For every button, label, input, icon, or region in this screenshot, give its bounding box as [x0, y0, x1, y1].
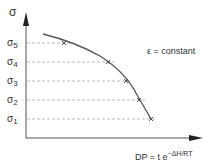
y-axis-arrow-icon [23, 12, 29, 26]
level-labels: σ5 σ4 σ3 σ2 σ1 [7, 37, 18, 126]
x-axis-label: DP = t e−ΔH/RT [135, 150, 193, 162]
label-sigma4: σ4 [7, 56, 18, 69]
label-sigma5: σ5 [7, 37, 18, 50]
stress-dp-diagram: σ σ5 σ4 σ3 σ2 σ1 ε = constant DP = t e−Δ… [0, 0, 210, 163]
constant-strain-curve [43, 34, 151, 119]
label-sigma1: σ1 [7, 113, 18, 126]
y-axis-label: σ [9, 5, 17, 19]
label-sigma2: σ2 [7, 94, 18, 107]
x-axis-arrow-icon [189, 135, 203, 141]
strain-constant-annotation: ε = constant [147, 46, 196, 56]
label-sigma3: σ3 [7, 75, 18, 88]
dashed-guides [27, 43, 157, 119]
